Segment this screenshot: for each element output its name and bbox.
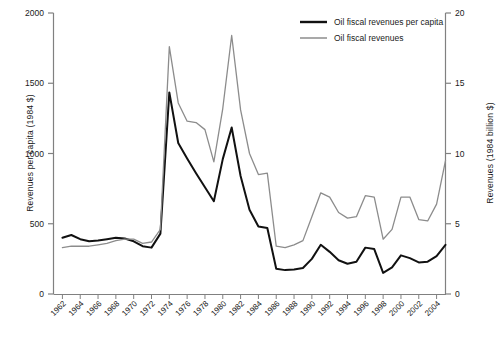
left-axis-ticks: 0500100015002000: [25, 8, 53, 299]
x-tick-label: 1994: [334, 299, 353, 318]
x-tick-label: 1966: [85, 299, 104, 318]
left-tick-label: 500: [30, 219, 44, 229]
chart-legend: Oil fiscal revenues per capitaOil fiscal…: [300, 17, 443, 43]
series-line-2: [62, 35, 445, 247]
right-axis-ticks: 05101520: [446, 8, 465, 299]
x-tick-label: 1992: [316, 299, 335, 318]
left-tick-label: 1500: [25, 78, 44, 88]
series-line-1: [62, 92, 445, 273]
legend-label-1: Oil fiscal revenues per capita: [334, 17, 443, 27]
x-tick-label: 1974: [156, 299, 175, 318]
x-tick-label: 1976: [174, 299, 193, 318]
x-tick-label: 1984: [245, 299, 264, 318]
x-tick-label: 1970: [120, 299, 139, 318]
x-tick-label: 1982: [227, 299, 246, 318]
line-chart-plot: 0500100015002000 05101520 19621964196619…: [0, 0, 500, 349]
right-tick-label: 10: [455, 149, 465, 159]
x-tick-label: 2002: [405, 299, 424, 318]
x-tick-label: 1998: [370, 299, 389, 318]
x-tick-label: 2004: [423, 299, 442, 318]
chart-figure: Revenues per capita (1984 $) Revenues (1…: [0, 0, 500, 349]
x-tick-label: 1978: [191, 299, 210, 318]
x-tick-label: 1972: [138, 299, 157, 318]
x-tick-label: 1988: [281, 299, 300, 318]
x-tick-label: 1980: [209, 299, 228, 318]
left-tick-label: 0: [39, 289, 44, 299]
x-tick-label: 1996: [352, 299, 371, 318]
right-tick-label: 20: [455, 8, 465, 18]
left-tick-label: 2000: [25, 8, 44, 18]
x-tick-label: 1964: [67, 299, 86, 318]
x-tick-label: 1986: [263, 299, 282, 318]
x-tick-label: 2000: [387, 299, 406, 318]
right-tick-label: 15: [455, 78, 465, 88]
x-axis-ticks: 1962196419661968197019721974197619781980…: [49, 295, 443, 318]
left-tick-label: 1000: [25, 149, 44, 159]
x-tick-label: 1962: [49, 299, 68, 318]
legend-label-2: Oil fiscal revenues: [334, 33, 403, 43]
x-tick-label: 1990: [298, 299, 317, 318]
x-tick-label: 1968: [102, 299, 121, 318]
right-tick-label: 5: [455, 219, 460, 229]
data-series-layer: [62, 35, 445, 272]
right-tick-label: 0: [455, 289, 460, 299]
